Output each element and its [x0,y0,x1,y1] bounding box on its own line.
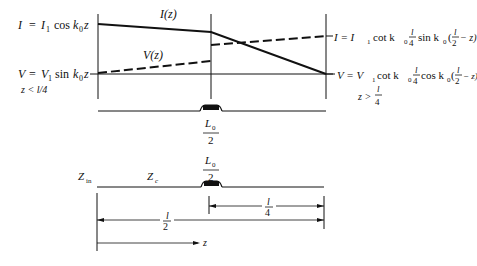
transmission-line-diagram: I(z) V(z) I = I 1 cos k 0 z V = V 1 sin … [0,0,477,266]
svg-text:V: V [18,67,27,81]
svg-text:=: = [29,18,36,32]
svg-text:L: L [204,154,211,166]
svg-text:4: 4 [375,97,380,107]
svg-text:cos k: cos k [421,69,444,81]
svg-text:l: l [457,65,460,75]
svg-text:l: l [267,196,270,207]
svg-text:1: 1 [372,76,376,84]
svg-text:2: 2 [163,221,168,232]
voltage-curve-label: V(z) [143,48,163,62]
svg-text:=: = [29,67,36,81]
dimension-lines [97,193,324,251]
z-axis-label: z [202,237,207,248]
voltage-curve-left [98,61,211,73]
svg-text:l: l [411,27,414,37]
svg-text:z >: z > [357,91,371,102]
svg-text:sin k: sin k [418,31,440,43]
svg-text:4: 4 [265,207,270,218]
svg-text:Z: Z [147,170,154,182]
svg-text:2: 2 [452,38,457,48]
current-curve-label: I(z) [159,7,177,21]
svg-text:l: l [415,65,418,75]
current-curve [98,24,326,74]
svg-text:− z): − z) [460,32,477,44]
svg-text:l: l [454,27,457,37]
svg-text:0: 0 [408,76,412,84]
svg-text:0: 0 [212,124,216,132]
svg-text:L: L [204,117,211,129]
svg-text:0: 0 [443,38,447,46]
svg-text:0: 0 [404,38,408,46]
left-current-equation: I = I 1 cos k 0 z [17,18,89,34]
svg-text:l: l [377,84,380,94]
svg-text:4: 4 [409,38,414,48]
arrow-right-icon [193,241,200,245]
svg-text:2: 2 [455,76,460,86]
svg-text:z: z [83,18,89,32]
left-condition: z < l/4 [20,84,47,95]
svg-text:I: I [17,18,23,32]
svg-text:cos: cos [54,18,70,32]
svg-text:l: l [166,210,169,221]
svg-text:Z: Z [78,170,85,182]
svg-text:0: 0 [212,161,216,169]
bottom-transmission-line [97,181,324,187]
middle-transmission-line [98,105,326,111]
svg-text:V = V: V = V [337,69,364,81]
bottom-labels: Z in Z c L 0 2 [78,154,219,185]
svg-text:I = I: I = I [333,31,356,43]
left-voltage-equation: V = V 1 sin k 0 z [18,67,89,83]
svg-text:− z): − z) [463,71,477,81]
svg-text:sin: sin [55,67,69,81]
svg-text:1: 1 [46,25,50,34]
svg-text:0: 0 [79,25,83,34]
right-voltage-equation: V = V 1 cot k 0 l 4 cos k 0 ( l 2 − z) [337,65,477,86]
svg-text:cot k: cot k [373,31,395,43]
svg-text:in: in [86,177,92,185]
svg-text:cot k: cot k [377,69,399,81]
svg-text:2: 2 [208,134,214,146]
svg-text:1: 1 [367,38,371,46]
right-current-equation: I = I 1 cot k 0 l 4 sin k 0 ( l 2 − z) [333,27,477,48]
middle-inductor-label: L 0 2 [203,117,219,146]
svg-text:1: 1 [48,74,52,83]
svg-text:0: 0 [79,74,83,83]
top-plot [90,14,333,99]
svg-text:4: 4 [413,76,418,86]
svg-text:c: c [155,177,159,185]
right-condition: z > l 4 [357,84,382,107]
svg-text:z: z [83,67,89,81]
